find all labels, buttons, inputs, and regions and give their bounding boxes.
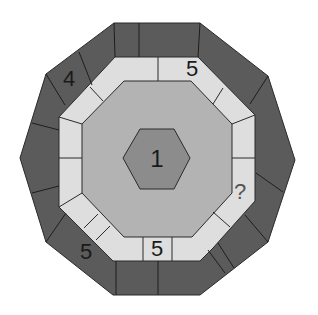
- question-mark: ?: [234, 181, 246, 203]
- outer-top-left-number: 4: [63, 68, 75, 90]
- outer-bottom-left-number: 5: [80, 241, 92, 263]
- puzzle-diagram: 1 4 5 ? 5 5: [0, 0, 318, 315]
- middle-bottom-number: 5: [151, 238, 163, 260]
- center-number: 1: [150, 147, 163, 171]
- middle-top-right-number: 5: [186, 58, 198, 80]
